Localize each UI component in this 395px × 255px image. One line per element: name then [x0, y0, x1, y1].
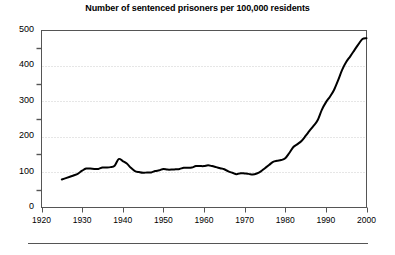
x-axis-tick-label: 1930 [67, 215, 97, 225]
chart-figure: Number of sentenced prisoners per 100,00… [0, 0, 395, 255]
x-axis-tick-label: 1960 [189, 215, 219, 225]
bottom-divider [28, 243, 368, 244]
x-axis-tick-label: 1920 [27, 215, 57, 225]
x-axis-tick-label: 2000 [352, 215, 382, 225]
y-axis-tick-label: 0 [6, 201, 34, 211]
x-axis-tick-label: 1950 [148, 215, 178, 225]
y-axis-minor-ticks [37, 49, 42, 191]
x-axis-tick-label: 1970 [230, 215, 260, 225]
x-axis-tick-label: 1940 [108, 215, 138, 225]
y-axis-tick-label: 400 [6, 59, 34, 69]
x-axis-ticks [43, 208, 368, 213]
y-axis-tick-label: 500 [6, 24, 34, 34]
x-axis-tick-label: 1980 [270, 215, 300, 225]
x-axis-tick-label: 1990 [311, 215, 341, 225]
y-axis-tick-label: 200 [6, 130, 34, 140]
data-series-line [62, 38, 367, 179]
y-axis-tick-label: 300 [6, 95, 34, 105]
y-axis-tick-label: 100 [6, 166, 34, 176]
